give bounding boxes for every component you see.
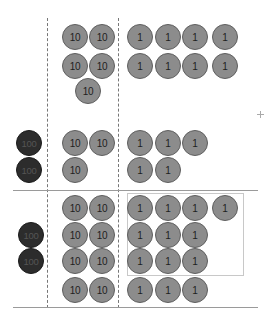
one-chip[interactable]: 1	[182, 130, 208, 156]
one-chip[interactable]: 1	[182, 53, 208, 79]
one-chip[interactable]: 1	[127, 195, 153, 221]
one-chip[interactable]: 1	[155, 222, 181, 248]
one-chip[interactable]: 1	[182, 248, 208, 274]
hundred-chip[interactable]: 100	[18, 222, 44, 248]
ten-chip[interactable]: 10	[89, 53, 115, 79]
ten-chip[interactable]: 10	[62, 24, 88, 50]
row-divider	[13, 307, 258, 308]
one-chip[interactable]: 1	[212, 53, 238, 79]
place-value-diagram: 1010101010111111111001001010101111110101…	[0, 0, 280, 321]
column-divider	[118, 18, 119, 308]
one-chip[interactable]: 1	[127, 157, 153, 183]
one-chip[interactable]: 1	[155, 157, 181, 183]
one-chip[interactable]: 1	[182, 24, 208, 50]
ten-chip[interactable]: 10	[89, 24, 115, 50]
ten-chip[interactable]: 10	[62, 248, 88, 274]
one-chip[interactable]: 1	[182, 195, 208, 221]
one-chip[interactable]: 1	[155, 130, 181, 156]
one-chip[interactable]: 1	[155, 277, 181, 303]
one-chip[interactable]: 1	[127, 130, 153, 156]
one-chip[interactable]: 1	[127, 277, 153, 303]
ten-chip[interactable]: 10	[89, 130, 115, 156]
one-chip[interactable]: 1	[127, 53, 153, 79]
hundred-chip[interactable]: 100	[16, 157, 42, 183]
one-chip[interactable]: 1	[155, 195, 181, 221]
column-divider	[47, 18, 48, 308]
one-chip[interactable]: 1	[155, 248, 181, 274]
ten-chip[interactable]: 10	[62, 222, 88, 248]
one-chip[interactable]: 1	[127, 24, 153, 50]
one-chip[interactable]: 1	[127, 222, 153, 248]
ten-chip[interactable]: 10	[62, 157, 88, 183]
crosshair-icon	[257, 111, 264, 118]
ten-chip[interactable]: 10	[89, 222, 115, 248]
one-chip[interactable]: 1	[212, 195, 238, 221]
one-chip[interactable]: 1	[182, 222, 208, 248]
ten-chip[interactable]: 10	[62, 130, 88, 156]
hundred-chip[interactable]: 100	[18, 248, 44, 274]
one-chip[interactable]: 1	[182, 277, 208, 303]
ten-chip[interactable]: 10	[62, 277, 88, 303]
one-chip[interactable]: 1	[127, 248, 153, 274]
ten-chip[interactable]: 10	[89, 195, 115, 221]
one-chip[interactable]: 1	[155, 24, 181, 50]
one-chip[interactable]: 1	[155, 53, 181, 79]
ten-chip[interactable]: 10	[89, 248, 115, 274]
row-divider	[13, 190, 258, 191]
ten-chip[interactable]: 10	[62, 53, 88, 79]
hundred-chip[interactable]: 100	[16, 130, 42, 156]
ten-chip[interactable]: 10	[62, 195, 88, 221]
ten-chip[interactable]: 10	[75, 78, 101, 104]
one-chip[interactable]: 1	[212, 24, 238, 50]
ten-chip[interactable]: 10	[89, 277, 115, 303]
